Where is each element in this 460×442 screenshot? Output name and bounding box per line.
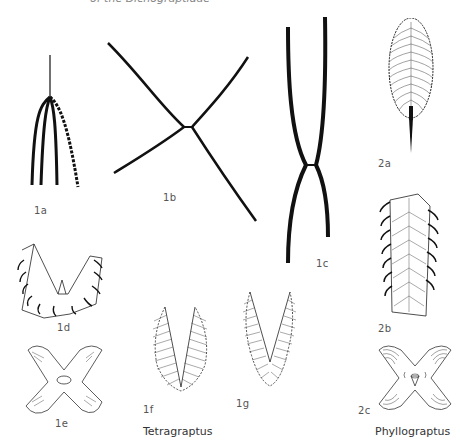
label-1g: 1g: [236, 398, 250, 409]
label-2b: 2b: [378, 323, 392, 334]
figure-1f-tetragraptus-biserial: [145, 305, 215, 395]
label-1f: 1f: [143, 404, 154, 415]
figure-1c-tetragraptus-reclined: [270, 15, 350, 275]
genus-label-tetragraptus: Tetragraptus: [143, 425, 212, 438]
label-1e: 1e: [55, 418, 69, 429]
label-1a: 1a: [34, 205, 48, 216]
figure-1e-tetragraptus-cross-section: [20, 340, 110, 420]
graptolite-plate: of the Dichograptidae 1a 1b 1c: [0, 0, 460, 442]
clipped-caption: of the Dichograptidae: [90, 0, 210, 5]
label-1b: 1b: [163, 192, 177, 203]
label-1c: 1c: [316, 258, 329, 269]
figure-2a-phyllograptus-leaf: [380, 18, 442, 154]
genus-label-phyllograptus: Phyllograptus: [375, 425, 450, 438]
figure-2c-phyllograptus-cross-section: [375, 342, 455, 414]
figure-1a-tetragraptus-pendent: [10, 55, 90, 195]
label-2a: 2a: [378, 158, 392, 169]
figure-1g-tetragraptus-biserial: [240, 290, 300, 390]
figure-2b-phyllograptus-fragment: [378, 192, 440, 322]
figure-1b-tetragraptus-horizontal: [100, 35, 280, 235]
figure-1d-tetragraptus-fragment: [14, 240, 104, 320]
label-1d: 1d: [57, 322, 71, 333]
label-2c: 2c: [358, 405, 371, 416]
